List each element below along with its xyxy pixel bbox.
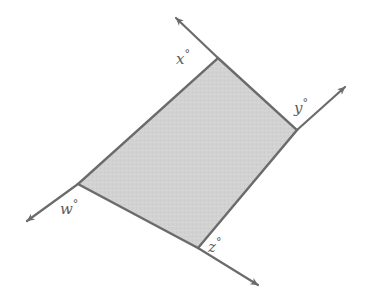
angle-label-z-degree: ° <box>216 236 222 249</box>
angle-label-y: y° <box>294 97 308 117</box>
angle-label-w-variable: w <box>60 200 73 218</box>
geometry-figure: x° y° w° z° <box>0 0 370 300</box>
parallelogram-shape <box>78 58 297 248</box>
angle-label-z-variable: z <box>208 238 216 256</box>
geometry-canvas <box>0 0 370 300</box>
angle-label-y-degree: ° <box>302 97 308 110</box>
angle-label-x-degree: ° <box>184 48 190 61</box>
angle-label-x: x° <box>176 48 190 68</box>
angle-label-w-degree: ° <box>73 198 79 211</box>
ray-lower-right-line <box>198 248 258 285</box>
angle-label-w: w° <box>60 198 78 218</box>
angle-label-z: z° <box>208 236 221 256</box>
